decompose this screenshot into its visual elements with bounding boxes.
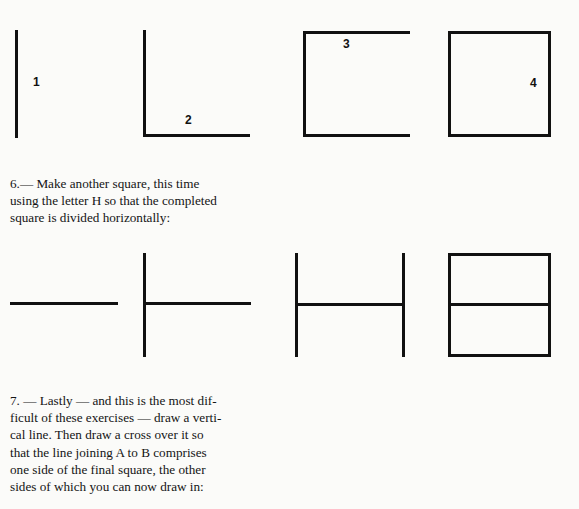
h-square-construction-row bbox=[0, 245, 579, 370]
figure-1-vertical-line: 1 bbox=[0, 0, 130, 160]
instruction-6-line-1: 6.— Make another square, this time bbox=[10, 175, 278, 192]
horizontal-stroke bbox=[143, 134, 250, 137]
instruction-7-line-5: one side of the final square, the other bbox=[10, 461, 278, 478]
top-stroke bbox=[448, 253, 551, 256]
instruction-6-line-2: using the letter H so that the completed bbox=[10, 192, 278, 209]
em-dash: — bbox=[20, 176, 33, 191]
figure-step-1-horizontal-line bbox=[0, 245, 130, 370]
left-stroke bbox=[448, 31, 451, 137]
figure-step-4-divided-square bbox=[435, 245, 579, 370]
crossbar-stroke bbox=[295, 303, 405, 306]
instruction-item-6: 6.— Make another square, this time using… bbox=[10, 175, 278, 227]
figure-step-2-cross bbox=[130, 245, 280, 370]
figure-label-2: 2 bbox=[185, 114, 192, 126]
figure-label-1: 1 bbox=[33, 76, 40, 88]
bottom-stroke bbox=[448, 134, 551, 137]
right-stroke bbox=[548, 31, 551, 137]
instruction-6-line-3: square is divided horizontally: bbox=[10, 209, 278, 226]
horizontal-stroke bbox=[143, 302, 251, 305]
top-stroke bbox=[303, 31, 410, 34]
vertical-stroke bbox=[143, 253, 146, 357]
figure-label-4: 4 bbox=[530, 77, 537, 89]
em-dash: — bbox=[23, 393, 36, 408]
line-text: Make another square, this time bbox=[36, 176, 199, 191]
instruction-7-line-4: that the line joining A to B comprises bbox=[10, 444, 278, 461]
bottom-stroke bbox=[303, 134, 410, 137]
figure-4-closed-square: 4 bbox=[435, 0, 579, 160]
vertical-stroke bbox=[143, 30, 146, 137]
instruction-7-line-1: 7. — Lastly — and this is the most dif- bbox=[10, 392, 278, 409]
instruction-item-7: 7. — Lastly — and this is the most dif- … bbox=[10, 392, 278, 495]
left-stroke bbox=[303, 31, 306, 137]
figure-step-3-letter-h bbox=[280, 245, 435, 370]
bottom-stroke bbox=[448, 354, 551, 357]
figure-label-3: 3 bbox=[343, 38, 350, 50]
square-construction-row: 1 2 3 4 bbox=[0, 0, 579, 160]
divider-stroke bbox=[448, 303, 551, 306]
figure-3-open-square: 3 bbox=[290, 0, 435, 160]
top-stroke bbox=[448, 31, 551, 34]
line-text: Lastly — and this is the most dif- bbox=[40, 393, 217, 408]
item-number: 7. bbox=[10, 393, 20, 408]
instruction-7-line-6: sides of which you can now draw in: bbox=[10, 478, 278, 495]
vertical-stroke bbox=[15, 30, 18, 138]
horizontal-stroke bbox=[10, 302, 118, 305]
instruction-7-line-2: ficult of these exercises — draw a verti… bbox=[10, 409, 278, 426]
instruction-7-line-3: cal line. Then draw a cross over it so bbox=[10, 426, 278, 443]
scanned-page: 1 2 3 4 6.— Make another square, this ti… bbox=[0, 0, 579, 509]
figure-2-corner: 2 bbox=[130, 0, 290, 160]
item-number: 6. bbox=[10, 176, 20, 191]
